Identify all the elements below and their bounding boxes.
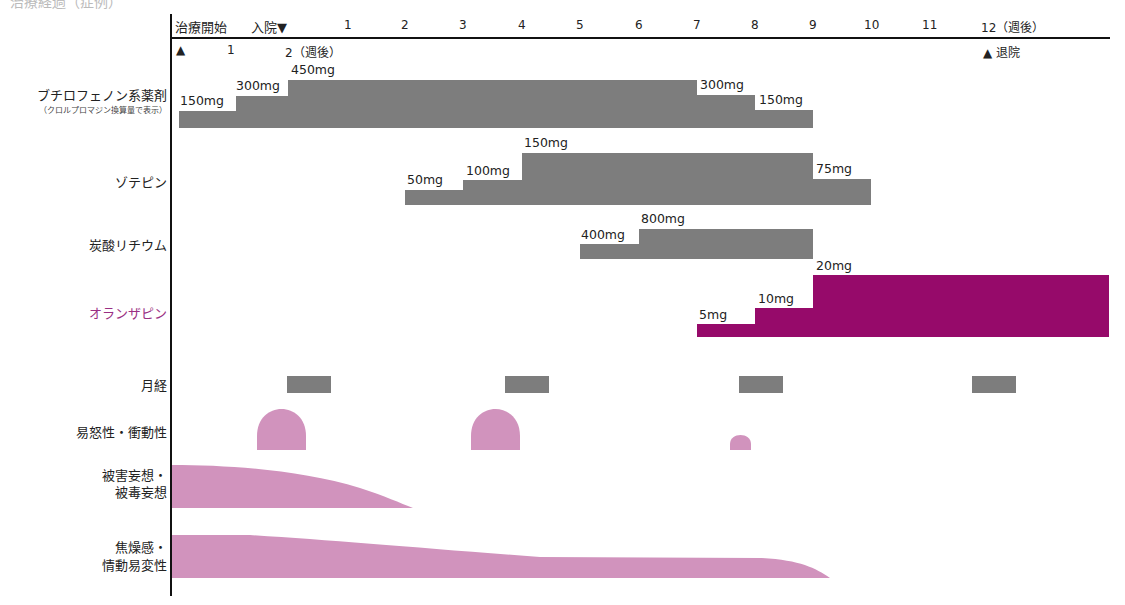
dose-label: 300mg [700, 77, 744, 92]
irritability-episodes [257, 409, 751, 450]
delusion-area [172, 465, 413, 508]
bar-zotepine [405, 153, 871, 205]
menstruation-periods [287, 376, 1016, 393]
dose-label: 450mg [291, 62, 335, 77]
anxiety-area [172, 535, 830, 578]
dose-label: 400mg [581, 227, 625, 242]
dose-label: 150mg [180, 93, 224, 108]
dose-label: 150mg [524, 135, 568, 150]
chart-plot-area [0, 0, 1125, 605]
bar-olanzapine [697, 275, 1109, 337]
dose-label: 75mg [816, 161, 852, 176]
dose-label: 100mg [466, 163, 510, 178]
dose-label: 20mg [816, 258, 852, 273]
dose-label: 150mg [759, 92, 803, 107]
dose-label: 300mg [236, 78, 280, 93]
dose-label: 50mg [407, 172, 443, 187]
dose-label: 10mg [758, 291, 794, 306]
dose-label: 800mg [641, 211, 685, 226]
dose-label: 5mg [699, 307, 727, 322]
